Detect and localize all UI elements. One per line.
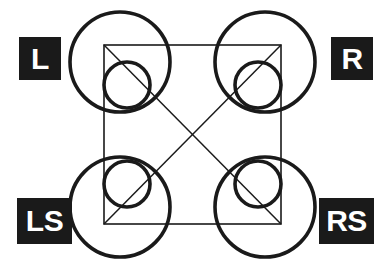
diagonals-group	[104, 45, 281, 224]
speaker-label-r: R	[331, 37, 373, 80]
speaker-label-l: L	[19, 37, 61, 80]
speaker-label-rs: RS	[319, 198, 374, 244]
speaker-label-ls: LS	[17, 198, 72, 244]
diagram-canvas: L R LS RS	[0, 0, 391, 277]
